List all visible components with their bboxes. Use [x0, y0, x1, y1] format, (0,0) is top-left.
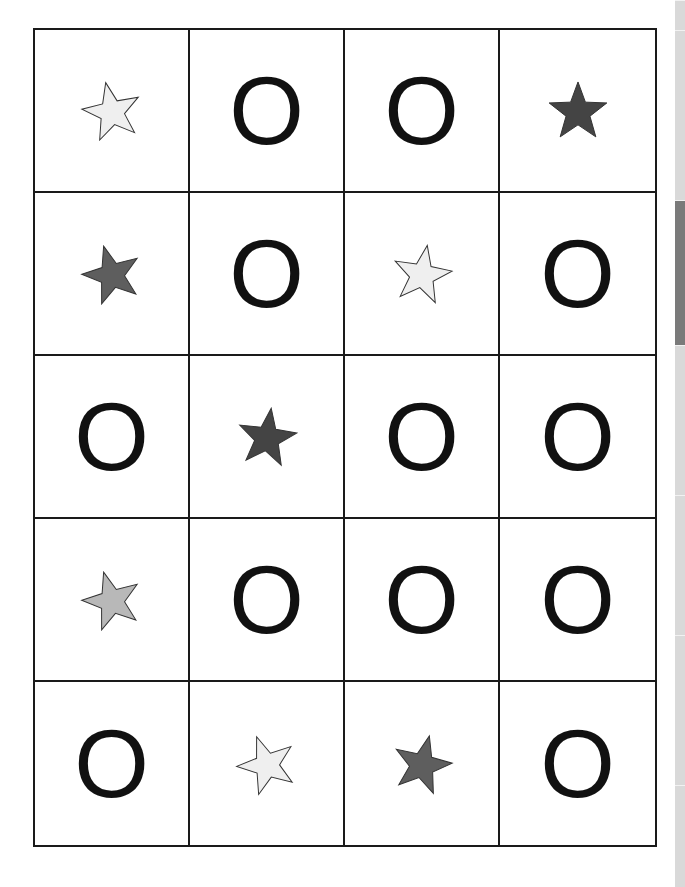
- letter-o: O: [540, 552, 615, 648]
- strip-segment: [675, 30, 685, 201]
- star-icon: [389, 731, 455, 797]
- star-icon: [79, 241, 145, 307]
- grid-cell: [190, 356, 345, 519]
- star-icon: [389, 241, 455, 307]
- letter-o: O: [384, 552, 459, 648]
- grid-cell: O: [500, 356, 655, 519]
- grid-cell: O: [345, 356, 500, 519]
- grid-cell: O: [35, 356, 190, 519]
- grid-cell: [35, 519, 190, 682]
- strip-segment: [675, 785, 685, 887]
- grid-cell: [345, 193, 500, 356]
- letter-o: O: [229, 552, 304, 648]
- letter-o: O: [229, 63, 304, 159]
- star-icon: [234, 731, 300, 797]
- star-icon: [79, 567, 145, 633]
- grid-cell: [190, 682, 345, 845]
- grid-cell: O: [35, 682, 190, 845]
- grid-cell: O: [190, 193, 345, 356]
- letter-o: O: [540, 226, 615, 322]
- strip-segment: [675, 200, 685, 346]
- grid-cell: O: [345, 30, 500, 193]
- strip-segment: [675, 0, 685, 31]
- star-icon: [545, 78, 611, 144]
- letter-o: O: [540, 389, 615, 485]
- letter-o: O: [384, 63, 459, 159]
- letter-o: O: [384, 389, 459, 485]
- strip-segment: [675, 635, 685, 786]
- star-icon: [234, 404, 300, 470]
- letter-o: O: [229, 226, 304, 322]
- star-icon: [79, 78, 145, 144]
- grid-cell: [35, 193, 190, 356]
- grid-cell: O: [500, 682, 655, 845]
- letter-o: O: [540, 716, 615, 812]
- grid-cell: [345, 682, 500, 845]
- strip-segment: [675, 495, 685, 636]
- letter-o: O: [74, 716, 149, 812]
- grid-cell: [35, 30, 190, 193]
- grid-cell: O: [500, 519, 655, 682]
- grid-cell: O: [190, 30, 345, 193]
- grid-cell: O: [345, 519, 500, 682]
- grid-cell: O: [190, 519, 345, 682]
- letter-o: O: [74, 389, 149, 485]
- strip-segment: [675, 345, 685, 496]
- grid-cell: [500, 30, 655, 193]
- side-strip: [675, 0, 685, 886]
- grid-cell: O: [500, 193, 655, 356]
- worksheet-grid: OOOOOOOOOOOO: [33, 28, 657, 847]
